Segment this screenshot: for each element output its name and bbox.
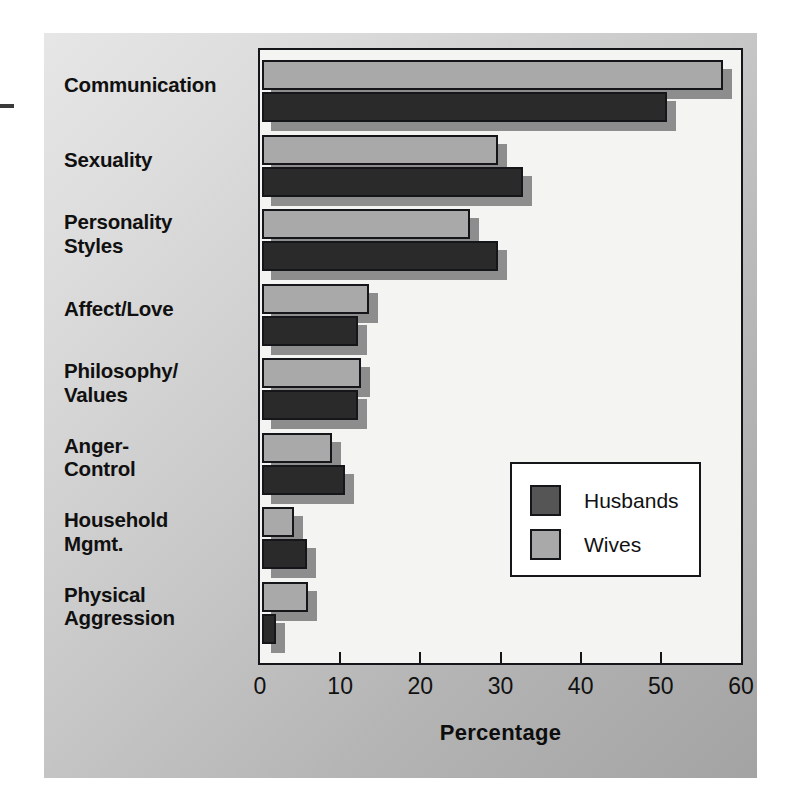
x-tick-50	[660, 652, 662, 663]
bar-wives-personality-styles	[262, 209, 470, 239]
category-label-anger-control: Anger- Control	[64, 434, 264, 482]
legend-swatch-wives	[530, 529, 561, 560]
legend-item-wives: Wives	[530, 529, 641, 560]
bar-wives-household-mgmt	[262, 507, 294, 537]
bar-husbands-personality-styles	[262, 241, 498, 271]
x-tick-label-60: 60	[728, 673, 754, 700]
bar-wives-physical-aggression	[262, 582, 308, 612]
category-label-communication: Communication	[64, 73, 264, 97]
bar-wives-affect-love	[262, 284, 369, 314]
legend-item-husbands: Husbands	[530, 485, 679, 516]
x-tick-label-50: 50	[648, 673, 674, 700]
x-tick-label-40: 40	[568, 673, 594, 700]
bar-husbands-affect-love	[262, 316, 358, 346]
legend-label-husbands: Husbands	[584, 489, 679, 513]
bar-wives-philosophy-values	[262, 358, 361, 388]
x-tick-10	[339, 652, 341, 663]
legend-label-wives: Wives	[584, 533, 641, 557]
bar-husbands-sexuality	[262, 167, 523, 197]
x-tick-label-10: 10	[327, 673, 353, 700]
bar-wives-anger-control	[262, 433, 332, 463]
legend-swatch-husbands	[530, 485, 561, 516]
category-label-household-mgmt: Household Mgmt.	[64, 508, 264, 556]
chart-figure: CommunicationSexualityPersonality Styles…	[44, 33, 757, 778]
legend: Husbands Wives	[510, 462, 701, 577]
category-label-philosophy-values: Philosophy/ Values	[64, 359, 264, 407]
bar-wives-communication	[262, 60, 723, 90]
category-label-sexuality: Sexuality	[64, 148, 264, 172]
bar-husbands-physical-aggression	[262, 614, 276, 644]
x-axis-title: Percentage	[440, 720, 562, 746]
x-tick-label-30: 30	[488, 673, 514, 700]
bar-husbands-philosophy-values	[262, 390, 358, 420]
category-label-physical-aggression: Physical Aggression	[64, 583, 264, 631]
bar-wives-sexuality	[262, 135, 498, 165]
page-margin-mark	[0, 104, 14, 108]
bar-husbands-anger-control	[262, 465, 345, 495]
category-label-affect-love: Affect/Love	[64, 297, 264, 321]
x-tick-30	[500, 652, 502, 663]
x-tick-label-0: 0	[254, 673, 267, 700]
x-tick-label-20: 20	[408, 673, 434, 700]
x-tick-40	[580, 652, 582, 663]
bar-husbands-household-mgmt	[262, 539, 307, 569]
bar-husbands-communication	[262, 92, 667, 122]
category-label-personality-styles: Personality Styles	[64, 210, 264, 258]
x-tick-20	[419, 652, 421, 663]
